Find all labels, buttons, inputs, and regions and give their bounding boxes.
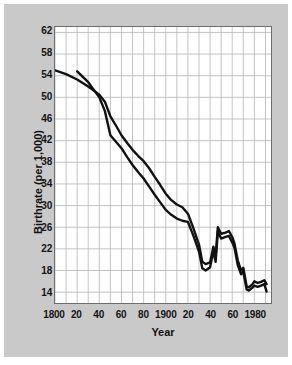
plot-area <box>54 26 272 304</box>
figure-background: Birthrate (per 1,000) 625854504642383430… <box>4 4 288 357</box>
x-axis-tick-labels: 18002040608019002040601980 <box>54 309 272 323</box>
y-tick-label: 58 <box>6 48 52 58</box>
y-tick-label: 42 <box>6 135 52 145</box>
y-tick-label: 26 <box>6 223 52 233</box>
data-series-group <box>55 70 267 291</box>
y-tick-label: 50 <box>6 92 52 102</box>
grid-minor-vertical <box>55 27 265 303</box>
grid-horizontal <box>55 32 271 292</box>
x-axis-title: Year <box>54 326 272 338</box>
y-tick-label: 34 <box>6 179 52 189</box>
y-tick-label: 14 <box>6 288 52 298</box>
chart-canvas <box>55 27 271 303</box>
y-tick-label: 30 <box>6 201 52 211</box>
y-axis-tick-labels: 62585450464238343026221814 <box>4 26 52 304</box>
y-tick-label: 46 <box>6 114 52 124</box>
y-tick-label: 22 <box>6 244 52 254</box>
y-tick-label: 62 <box>6 26 52 36</box>
y-tick-label: 18 <box>6 266 52 276</box>
y-tick-label: 54 <box>6 70 52 80</box>
x-tick-label: 1980 <box>235 309 275 320</box>
y-tick-label: 38 <box>6 157 52 167</box>
